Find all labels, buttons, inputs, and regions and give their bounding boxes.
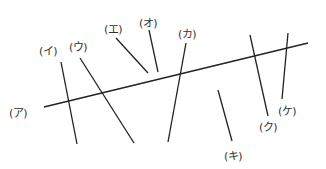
crossing-line-label-4: (オ) [139, 14, 157, 30]
crossing-line-label-3: (エ) [104, 20, 122, 36]
crossing-line-7 [250, 35, 268, 116]
crossing-line-6 [218, 90, 232, 141]
crossing-line-4 [149, 30, 158, 72]
crossing-line-label-2: (ウ) [69, 38, 87, 54]
crossing-line-3 [116, 38, 148, 73]
crossing-line-5 [168, 43, 186, 142]
crossing-line-2 [80, 58, 134, 143]
line-diagram [0, 0, 326, 169]
crossing-line-label-8: (ケ) [278, 102, 296, 118]
crossing-line-label-1: (イ) [39, 42, 57, 58]
crossing-line-label-5: (カ) [178, 25, 196, 41]
crossing-line-8 [282, 33, 288, 99]
crossing-line-1 [61, 62, 77, 144]
crossing-line-label-6: (キ) [224, 147, 242, 163]
crossing-line-label-7: (ク) [259, 118, 277, 134]
main-line-label: (ア) [9, 104, 27, 120]
